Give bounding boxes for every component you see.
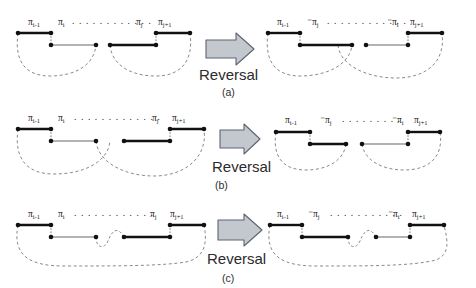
dashed-arc-left [275,132,346,170]
row-b-right-panel: πi-1 ⁻πj . . . . . . . . . ⁻πi πj+1 [274,114,443,170]
dashed-arc-right [338,33,442,78]
node [168,235,173,240]
label-pi-j: πj [150,209,157,220]
node [49,223,54,228]
node [168,223,173,228]
dashed-arc-right [362,132,441,170]
node [408,223,413,228]
row-c-right-panel: πi-1 ⁻πj . . . . . . . . . . . ⁻πi πj+1 [268,208,447,266]
node [300,235,305,240]
figure-canvas: πi-1 πi . . . . . . . . . . . . πj πj+1 [0,0,476,288]
reversal-label-b: Reversal [212,158,271,175]
label-pi-j-plus-1: πj+1 [170,209,184,220]
node [298,31,303,36]
node [440,31,445,36]
node [374,235,379,240]
dashed-squiggle [348,230,376,246]
node [360,142,365,147]
node [406,31,411,36]
row-c-left-panel: πi-1 πi . . . . . . . . . . . . πj πj+1 [16,208,207,266]
row-b-left-panel: πi-1 πi . . . . . . . . . . . . . πj πj+… [16,112,207,176]
dashed-arc-left [17,129,110,174]
node [266,31,271,36]
label-minus-pi-j: ⁻πj [307,17,319,28]
node [300,223,305,228]
node [94,43,99,48]
node [442,223,447,228]
label-pi-j-plus-1: πj+1 [414,115,428,126]
label-pi-i: πi [58,113,65,124]
label-pi-i: πi [58,17,65,28]
label-pi-i-minus-1: πi-1 [285,115,297,126]
row-a-left-panel: πi-1 πi . . . . . . . . . . . . πj πj+1 [16,16,193,76]
reversal-label-c: Reversal [207,250,266,267]
node [168,127,173,132]
node [350,43,355,48]
label-pi-j-plus-1: πj+1 [172,113,186,124]
dashed-arc-outer-left [17,33,96,76]
node [202,223,207,228]
row-a-diagram: πi-1 πi . . . . . . . . . . . . πj πj+1 [0,0,476,100]
node [268,223,273,228]
reversal-arrow-c [218,214,262,246]
node [202,127,207,132]
label-pi-i-minus-1: πi-1 [277,209,289,220]
node [94,139,99,144]
dashed-arc-left [267,33,352,76]
node [94,235,99,240]
node [274,130,279,135]
row-a-right-panel: πi-1 ⁻πj . . . . . . . . . . . . ⁻πi πj+… [266,16,445,78]
node [49,43,54,48]
node [16,223,21,228]
dashed-arc-outer [17,225,206,266]
dashed-arc-outer-right [110,33,191,76]
label-pi-i: πi [58,209,65,220]
label-pi-i-minus-1: πi-1 [28,209,40,220]
node [298,43,303,48]
node [49,235,54,240]
row-b-diagram: πi-1 πi . . . . . . . . . . . . . πj πj+… [0,96,476,194]
node [406,130,411,135]
reversal-label-a: Reversal [199,66,258,83]
node [16,31,21,36]
caption-c: (c) [222,272,234,284]
node [49,139,54,144]
node [188,31,193,36]
label-pi-j-plus-1: πj+1 [410,17,424,28]
node [364,43,369,48]
label-pi-j-plus-1: πj+1 [412,209,426,220]
node [122,139,127,144]
node [154,31,159,36]
node [108,43,113,48]
node [49,127,54,132]
label-ellipsis: . . . . . . . . . . . . [74,208,154,218]
label-pi-i-minus-1: πi-1 [28,17,40,28]
label-minus-pi-j: ⁻πj [308,209,320,220]
node [346,235,351,240]
node [16,127,21,132]
node [438,130,443,135]
label-minus-pi-j: ⁻πj [320,115,332,126]
node [406,43,411,48]
label-ellipsis: . . . . . . . . . . . . . [74,112,161,122]
node [408,235,413,240]
node [308,142,313,147]
caption-b: (b) [215,179,228,191]
label-minus-pi-i: ⁻πi [392,115,404,126]
node [168,139,173,144]
node [49,31,54,36]
label-pi-i-minus-1: πi-1 [28,113,40,124]
node [406,142,411,147]
node [154,43,159,48]
row-c-diagram: πi-1 πi . . . . . . . . . . . . πj πj+1 [0,192,476,288]
label-pi-j-plus-1: πj+1 [158,17,172,28]
reversal-arrow-a [206,33,254,65]
dashed-arc-right [96,129,204,176]
label-pi-i-minus-1: πi-1 [277,17,289,28]
node [308,130,313,135]
dashed-arc-outer [269,225,447,266]
node [122,235,127,240]
dashed-squiggle [96,230,124,246]
node [344,142,349,147]
reversal-arrow-b [220,124,260,154]
